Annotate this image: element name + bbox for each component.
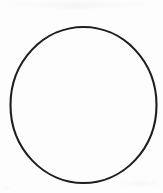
figure-canvas bbox=[0, 0, 163, 193]
circle-outline bbox=[11, 27, 157, 183]
circle-figure-svg bbox=[0, 0, 163, 193]
